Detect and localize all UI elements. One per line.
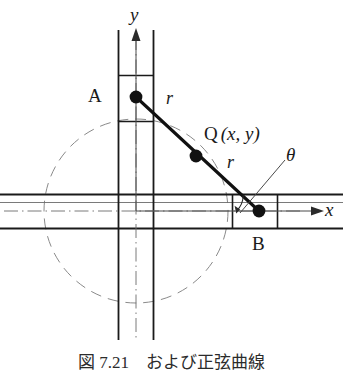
- x-axis-arrowhead-icon: [311, 207, 324, 216]
- figure-caption: 図 7.21 および正弦曲線: [0, 348, 343, 373]
- point-q-label: Q: [204, 123, 218, 144]
- point-q-label-group: Q(x, y): [204, 124, 260, 143]
- y-axis-label: y: [130, 5, 138, 24]
- point-q-marker: [190, 150, 203, 163]
- point-q-coords: (x, y): [221, 123, 260, 144]
- y-axis-arrowhead-icon: [132, 28, 141, 41]
- point-a-label: A: [88, 86, 102, 105]
- x-axis-label: x: [325, 200, 333, 219]
- segment-aq-length-label: r: [166, 89, 173, 107]
- point-b-marker: [253, 205, 266, 218]
- angle-theta-label: θ: [286, 145, 295, 164]
- segment-qb-length-label: r: [227, 153, 234, 171]
- point-b-label: B: [252, 234, 265, 253]
- point-a-marker: [130, 91, 143, 104]
